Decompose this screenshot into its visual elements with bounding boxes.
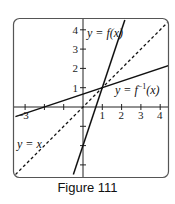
y-tick-label: 3 [73, 43, 79, 55]
x-tick-label: 2 [119, 109, 125, 121]
y-tick-label: 1 [73, 82, 79, 94]
label-f-inverse: y = f−1(x) [114, 82, 160, 97]
x-tick-label: 1 [100, 109, 106, 121]
label-f: y = f(x) [86, 26, 123, 40]
y-tick-label: 4 [73, 24, 79, 36]
label-identity: y = x [16, 137, 42, 151]
line-identity [15, 20, 170, 175]
y-tick-label: 2 [73, 62, 79, 74]
figure-caption: Figure 111 [0, 180, 175, 195]
line-f [73, 20, 124, 175]
x-tick-label: 4 [157, 109, 163, 121]
x-tick-label: 3 [138, 109, 144, 121]
x-tick-label: −3 [17, 109, 29, 121]
chart: −3 1 2 3 4 1 2 3 4 y = f(x) y = f−1(x) y… [0, 0, 175, 204]
